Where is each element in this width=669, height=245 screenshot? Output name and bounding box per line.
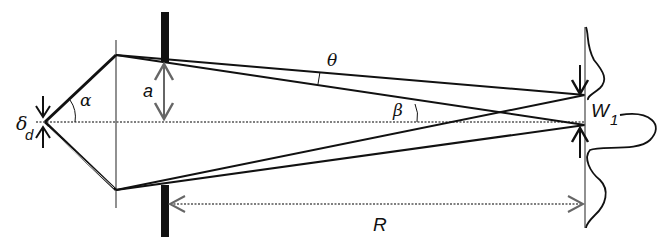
w-subscript: 1 [610, 111, 618, 128]
aperture-bottom-bar [161, 185, 169, 237]
r-label: R [373, 214, 387, 235]
theta-label: θ [327, 50, 337, 70]
optics-diagram: α θ β a δ d W 1 R [0, 0, 669, 245]
a-label: a [143, 81, 153, 101]
delta-subscript: d [25, 126, 34, 143]
ray-bottom-to-lower [116, 125, 585, 190]
alpha-label: α [80, 90, 92, 110]
source-ray-bottom-inner [48, 127, 114, 188]
intensity-profile [586, 27, 656, 228]
beta-label: β [392, 100, 403, 120]
beta-arc [415, 104, 418, 122]
ray-bottom-to-upper [116, 95, 585, 190]
theta-arc [318, 72, 320, 84]
source-ray-top [45, 55, 116, 122]
alpha-arc [70, 100, 75, 122]
w-label: W [591, 100, 611, 121]
aperture-top-bar [161, 12, 169, 62]
